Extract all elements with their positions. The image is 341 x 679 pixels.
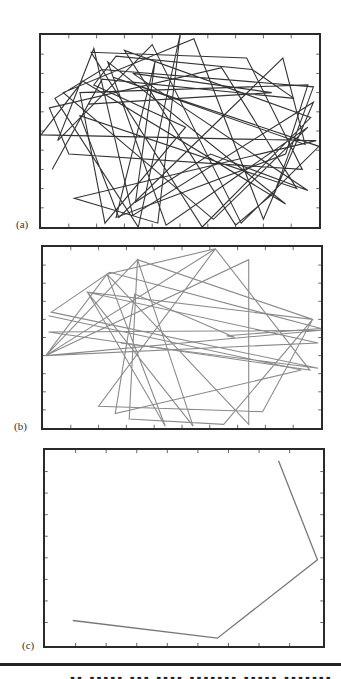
panel-c-label: (c) (22, 639, 34, 651)
panel-b-label: (b) (14, 420, 27, 432)
panel-b-plot (43, 247, 321, 428)
caption-divider (0, 663, 341, 666)
panel-c-ticks (45, 450, 323, 646)
caption-fragment: ▪▪ ▪▪▪▪▪ ▪▪▪ ▪▪▪▪ ▪▪▪▪▪▪▪ ▪▪▪▪▪ ▪▪▪▪▪▪▪ (0, 673, 341, 679)
panel-c (43, 448, 325, 648)
panel-c-plot (45, 450, 323, 646)
panel-a-tour (41, 35, 319, 227)
panel-b-tour (46, 249, 321, 426)
panel-c-path (73, 461, 318, 638)
panel-b (41, 245, 323, 430)
panel-a (39, 33, 321, 229)
caption-cut-off: ▪▪ ▪▪▪▪▪ ▪▪▪ ▪▪▪▪ ▪▪▪▪▪▪▪ ▪▪▪▪▪ ▪▪▪▪▪▪▪ (0, 673, 341, 679)
panel-a-label: (a) (16, 218, 28, 230)
panel-a-plot (41, 35, 319, 227)
